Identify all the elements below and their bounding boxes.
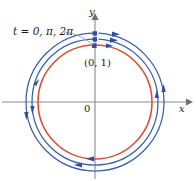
marker-t-pi: [93, 37, 97, 41]
marker-t-2pi: [93, 31, 97, 35]
x-axis-arrowhead: [186, 98, 193, 105]
t-values-text: t = 0, π, 2π: [13, 25, 73, 37]
point-coordinate-label: (0, 1): [84, 58, 111, 68]
y-axis-label: y: [89, 7, 95, 17]
x-axis-label: x: [179, 104, 185, 114]
t-value-markers-group: [92, 31, 97, 48]
direction-arrow-left-middle: [30, 106, 34, 114]
direction-arrow-bottom-middle: [86, 156, 94, 161]
origin-label: 0: [84, 104, 90, 114]
direction-arrow-right-middle: [155, 90, 159, 98]
t-values-label: t = 0, π, 2π: [13, 26, 73, 37]
